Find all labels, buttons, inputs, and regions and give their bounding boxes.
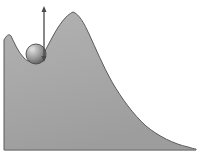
sphere-highlight-icon xyxy=(29,47,35,52)
energy-landscape-diagram xyxy=(0,0,203,161)
sphere xyxy=(26,44,46,64)
figure-container: Energy landscape with trapped sphere and… xyxy=(0,0,203,161)
